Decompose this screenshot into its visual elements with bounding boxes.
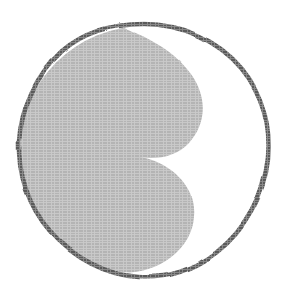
taijitu-diagram: Yin-Yang (Taijitu) [0, 0, 291, 305]
figure-root: Yin-Yang (Taijitu) [0, 0, 291, 305]
